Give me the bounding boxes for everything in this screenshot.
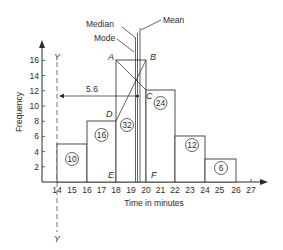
y-axis-label: Frequency	[14, 91, 24, 132]
x-tick-label: 21	[156, 185, 166, 195]
y-tick-label: 16	[30, 55, 40, 65]
histogram-svg: 2 4 6 8 10 12 14 16 Frequency 14 15 16 1…	[0, 0, 283, 250]
median-distance-label: 5.6	[86, 84, 98, 94]
x-tick-label: 15	[67, 185, 77, 195]
point-b-label: B	[150, 52, 156, 62]
median-pointer	[122, 27, 136, 38]
histogram-chart: 2 4 6 8 10 12 14 16 Frequency 14 15 16 1…	[0, 0, 283, 250]
x-tick-label: 26	[231, 185, 241, 195]
y-tick-label: 4	[34, 147, 39, 157]
reference-label-top: Y	[54, 52, 61, 62]
reference-label-bottom: Y	[54, 234, 61, 244]
x-axis-label: Time in minutes	[124, 198, 184, 208]
mode-label: Mode	[94, 33, 116, 43]
point-f-label: F	[151, 170, 157, 180]
median-point	[136, 94, 139, 97]
median-label: Median	[86, 19, 114, 29]
area-label: 6	[219, 163, 224, 173]
x-tick-label: 19	[126, 185, 136, 195]
y-tick-label: 12	[30, 86, 40, 96]
point-e-label: E	[108, 170, 115, 180]
point-c-label: C	[146, 91, 153, 101]
histogram-bars	[57, 60, 236, 182]
mode-pointer	[117, 39, 134, 52]
area-label: 16	[97, 130, 107, 140]
point-d-label: D	[106, 109, 113, 119]
x-tick-label: 23	[185, 185, 195, 195]
area-label: 32	[122, 120, 132, 130]
area-label: 10	[67, 154, 77, 164]
area-label: 24	[156, 98, 166, 108]
y-tick-label: 8	[34, 116, 39, 126]
x-tick-label: 18	[111, 185, 121, 195]
y-axis-arrow-icon	[39, 40, 45, 48]
y-tick-label: 14	[30, 71, 40, 81]
point-a-label: A	[107, 52, 114, 62]
x-tick-label: 27	[246, 185, 256, 195]
mean-label: Mean	[163, 15, 185, 25]
x-tick-label: 17	[97, 185, 107, 195]
y-tick-label: 2	[34, 162, 39, 172]
x-tick-label: 16	[82, 185, 92, 195]
area-label: 12	[187, 140, 197, 150]
x-axis-arrow-icon	[260, 179, 268, 185]
y-tick-label: 10	[30, 101, 40, 111]
x-tick-label: 24	[200, 185, 210, 195]
x-tick-label: 22	[170, 185, 180, 195]
x-tick-label: 20	[141, 185, 151, 195]
mean-pointer	[141, 20, 161, 30]
x-tick-label: 25	[215, 185, 225, 195]
y-ticks: 2 4 6 8 10 12 14 16	[30, 55, 45, 171]
y-tick-label: 6	[34, 131, 39, 141]
